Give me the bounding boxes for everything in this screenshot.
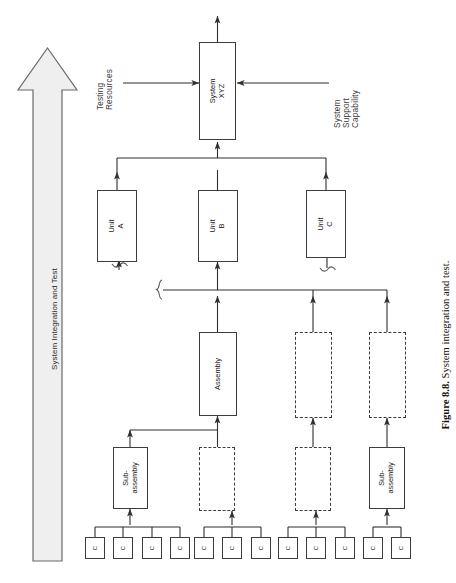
component-c[interactable]: C [113,537,133,559]
node-sub-assembly-1[interactable]: Sub-assembly [113,447,148,509]
external-input-testing-resources: Testing Resources [96,69,114,110]
node-sub-assembly-dashed-1[interactable] [199,447,235,511]
process-arrow-shape [18,48,77,561]
component-c-label: C [120,546,126,550]
component-c[interactable]: C [142,537,162,559]
component-c-label: C [285,546,291,550]
component-c-label: C [258,546,264,550]
component-c-label: C [92,546,98,550]
node-sub-assembly-2[interactable]: Sub- assembly [369,447,405,509]
component-c[interactable]: C [278,537,298,559]
component-c[interactable]: C [222,537,242,559]
component-c-label: C [149,546,155,550]
process-arrow-label: System Integration and Test [51,268,59,370]
component-c-label: C [342,546,348,550]
component-c[interactable]: C [170,537,190,559]
node-unit-c[interactable]: Unit C [306,190,346,258]
node-sub-assembly-1-label: Sub-assembly [122,462,139,493]
node-system-xyz[interactable]: System XYZ [199,42,236,140]
component-c-label: C [398,546,404,550]
node-unit-b[interactable]: Unit B [198,190,238,262]
node-assembly[interactable]: Assembly [199,332,237,416]
figure-caption-text: System integration and test. [440,261,451,381]
component-c-label: C [370,546,376,550]
node-assembly-dashed-1[interactable] [295,332,332,418]
node-unit-a[interactable]: Unit A [97,190,137,262]
node-assembly-label: Assembly [214,358,223,390]
node-unit-c-label: Unit C [317,215,334,234]
figure-caption: Figure 8.8. System integration and test. [429,261,456,440]
component-c[interactable]: C [194,537,214,559]
component-c[interactable]: C [363,537,383,559]
component-c[interactable]: C [306,537,326,559]
node-unit-b-label: Unit B [209,217,226,236]
component-c[interactable]: C [251,537,271,559]
component-c-label: C [229,546,235,550]
figure-caption-label: Figure 8.8. [440,381,451,429]
component-c[interactable]: C [335,537,355,559]
node-assembly-dashed-2[interactable] [369,332,406,418]
node-system-xyz-label: System XYZ [209,79,226,104]
component-c-label: C [313,546,319,550]
node-sub-assembly-dashed-2[interactable] [295,447,331,511]
node-unit-a-label: Unit A [108,217,125,236]
node-sub-assembly-2-label: Sub- assembly [378,462,395,493]
component-c-label: C [201,546,207,550]
component-c-label: C [177,546,183,550]
component-c[interactable]: C [85,537,105,559]
component-c[interactable]: C [391,537,411,559]
external-input-system-support-capability: System Support Capability [333,90,360,128]
